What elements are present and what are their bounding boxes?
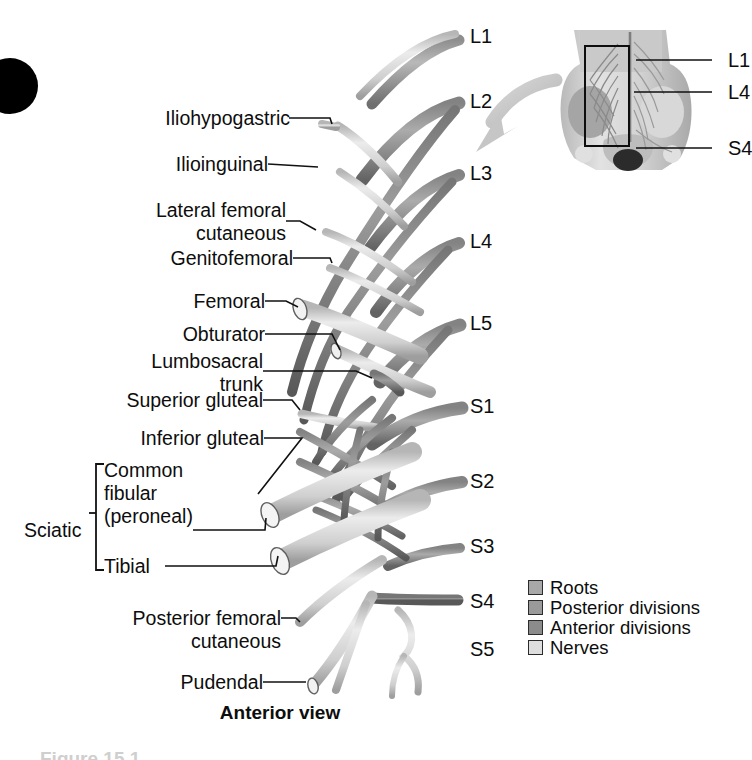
level-S4: S4 — [470, 590, 494, 612]
anterior-view-label: Anterior view — [0, 702, 560, 724]
inset-level-L1: L1 — [728, 50, 750, 70]
label-ilioinguinal: Ilioinguinal — [110, 153, 268, 176]
inset-level-S4: S4 — [728, 138, 752, 158]
sciatic-bracket — [89, 464, 104, 570]
label-lateral-femoral-cutaneous: Lateral femoral cutaneous — [94, 199, 286, 245]
level-S3: S3 — [470, 535, 494, 557]
level-L5: L5 — [470, 312, 492, 334]
pelvis-orientation-inset: L1 L4 S4 — [544, 24, 712, 184]
level-S2: S2 — [470, 470, 494, 492]
legend-label-posterior-divisions: Posterior divisions — [550, 598, 700, 617]
inset-torso-image — [544, 24, 712, 184]
level-S5: S5 — [470, 638, 494, 660]
label-sciatic: Sciatic — [24, 519, 94, 542]
level-L4: L4 — [470, 230, 492, 252]
legend-swatch-posterior-divisions — [528, 600, 543, 615]
legend-item-roots: Roots — [528, 578, 728, 597]
legend-label-roots: Roots — [550, 578, 598, 597]
legend-item-nerves: Nerves — [528, 638, 728, 657]
legend-label-anterior-divisions: Anterior divisions — [550, 618, 691, 637]
legend-label-nerves: Nerves — [550, 638, 609, 657]
legend-swatch-nerves — [528, 640, 543, 655]
level-L2: L2 — [470, 90, 492, 112]
legend-item-anterior-divisions: Anterior divisions — [528, 618, 728, 637]
legend-swatch-anterior-divisions — [528, 620, 543, 635]
legend-swatch-roots — [528, 580, 543, 595]
level-S1: S1 — [470, 395, 494, 417]
legend-item-posterior-divisions: Posterior divisions — [528, 598, 728, 617]
label-superior-gluteal: Superior gluteal — [73, 389, 263, 412]
label-iliohypogastric: Iliohypogastric — [142, 107, 290, 130]
level-L1: L1 — [470, 25, 492, 47]
label-common-fibular-peroneal: Common fibular (peroneal) — [104, 459, 234, 528]
figure-caption-partial: Figure 15.1 — [40, 748, 640, 760]
label-inferior-gluteal: Inferior gluteal — [80, 427, 264, 450]
label-pudendal: Pudendal — [121, 671, 263, 694]
label-femoral: Femoral — [123, 290, 265, 313]
label-obturator: Obturator — [115, 323, 265, 346]
level-L3: L3 — [470, 162, 492, 184]
legend: Roots Posterior divisions Anterior divis… — [528, 578, 728, 658]
label-genitofemoral: Genitofemoral — [113, 247, 293, 270]
inset-level-L4: L4 — [728, 82, 750, 102]
label-tibial: Tibial — [104, 555, 184, 578]
label-posterior-femoral-cutaneous: Posterior femoral cutaneous — [73, 607, 281, 653]
